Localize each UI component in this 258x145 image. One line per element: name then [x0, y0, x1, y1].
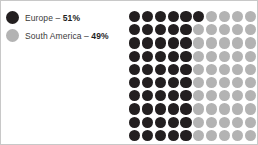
waffle-cell — [244, 23, 257, 36]
waffle-cell — [141, 36, 154, 49]
waffle-cell — [154, 10, 167, 23]
waffle-cell — [205, 129, 218, 142]
legend-item-south-america[interactable]: South America – 49% — [6, 27, 125, 44]
waffle-dot-south-america — [219, 64, 230, 75]
waffle-dot-europe — [180, 103, 191, 114]
waffle-dot-south-america — [206, 64, 217, 75]
south-america-swatch-icon — [6, 29, 19, 42]
waffle-dot-south-america — [219, 90, 230, 101]
waffle-dot-south-america — [245, 64, 256, 75]
waffle-dot-south-america — [206, 37, 217, 48]
waffle-cell — [141, 102, 154, 115]
waffle-cell — [231, 89, 244, 102]
waffle-cell — [154, 116, 167, 129]
waffle-dot-south-america — [245, 117, 256, 128]
waffle-cell — [244, 102, 257, 115]
waffle-cell — [180, 76, 193, 89]
waffle-dot-south-america — [206, 117, 217, 128]
waffle-cell — [141, 10, 154, 23]
waffle-cell — [231, 36, 244, 49]
waffle-cell — [192, 23, 205, 36]
waffle-cell — [180, 23, 193, 36]
waffle-cell — [231, 102, 244, 115]
waffle-cell — [244, 76, 257, 89]
waffle-dot-south-america — [219, 103, 230, 114]
waffle-dot-europe — [180, 24, 191, 35]
waffle-dot-europe — [180, 117, 191, 128]
waffle-cell — [128, 36, 141, 49]
waffle-dot-south-america — [206, 24, 217, 35]
waffle-dot-south-america — [206, 90, 217, 101]
waffle-cell — [205, 10, 218, 23]
waffle-cell — [244, 63, 257, 76]
legend-item-europe[interactable]: Europe – 51% — [6, 9, 125, 26]
waffle-dot-europe — [168, 90, 179, 101]
waffle-dot-europe — [142, 37, 153, 48]
waffle-cell — [231, 23, 244, 36]
waffle-dot-europe — [180, 64, 191, 75]
waffle-cell — [231, 129, 244, 142]
waffle-cell — [167, 10, 180, 23]
waffle-dot-south-america — [245, 103, 256, 114]
waffle-cell — [128, 102, 141, 115]
waffle-dot-europe — [180, 77, 191, 88]
waffle-dot-south-america — [206, 130, 217, 141]
waffle-cell — [128, 129, 141, 142]
waffle-dot-europe — [168, 24, 179, 35]
waffle-cell — [231, 116, 244, 129]
waffle-dot-europe — [142, 130, 153, 141]
waffle-dot-south-america — [232, 77, 243, 88]
waffle-dot-europe — [155, 117, 166, 128]
waffle-dot-europe — [180, 51, 191, 62]
waffle-dot-south-america — [245, 90, 256, 101]
waffle-cell — [218, 36, 231, 49]
waffle-cell — [141, 63, 154, 76]
waffle-dot-south-america — [245, 130, 256, 141]
waffle-dot-south-america — [232, 130, 243, 141]
waffle-cell — [167, 89, 180, 102]
waffle-cell — [218, 10, 231, 23]
waffle-dot-south-america — [245, 37, 256, 48]
waffle-dot-europe — [129, 64, 140, 75]
waffle-dot-south-america — [219, 77, 230, 88]
waffle-cell — [205, 76, 218, 89]
waffle-dot-south-america — [206, 103, 217, 114]
waffle-dot-europe — [129, 77, 140, 88]
waffle-dot-europe — [168, 103, 179, 114]
waffle-dot-europe — [142, 24, 153, 35]
waffle-chart-figure: Europe – 51% South America – 49% — [0, 0, 258, 145]
waffle-dot-south-america — [232, 90, 243, 101]
waffle-dot-europe — [193, 11, 204, 22]
waffle-dot-europe — [168, 117, 179, 128]
waffle-dot-europe — [142, 51, 153, 62]
waffle-cell — [218, 102, 231, 115]
waffle-dot-europe — [168, 11, 179, 22]
waffle-dot-south-america — [193, 51, 204, 62]
waffle-cell — [154, 50, 167, 63]
waffle-cell — [244, 10, 257, 23]
waffle-dot-europe — [129, 51, 140, 62]
waffle-dot-south-america — [245, 51, 256, 62]
waffle-dot-south-america — [193, 64, 204, 75]
waffle-dot-europe — [168, 51, 179, 62]
waffle-dot-europe — [155, 130, 166, 141]
waffle-cell — [218, 116, 231, 129]
legend-item-south-america-label: South America – 49% — [25, 31, 109, 41]
waffle-cell — [205, 50, 218, 63]
waffle-cell — [180, 116, 193, 129]
waffle-cell — [180, 129, 193, 142]
waffle-dot-south-america — [219, 24, 230, 35]
waffle-cell — [192, 129, 205, 142]
waffle-cell — [128, 50, 141, 63]
waffle-dot-south-america — [232, 11, 243, 22]
waffle-dot-europe — [129, 130, 140, 141]
waffle-cell — [180, 63, 193, 76]
waffle-cell — [154, 102, 167, 115]
waffle-cell — [167, 129, 180, 142]
waffle-dot-europe — [142, 64, 153, 75]
waffle-dot-europe — [129, 11, 140, 22]
waffle-dot-europe — [155, 77, 166, 88]
waffle-dot-south-america — [193, 24, 204, 35]
waffle-dot-south-america — [193, 90, 204, 101]
waffle-cell — [205, 63, 218, 76]
